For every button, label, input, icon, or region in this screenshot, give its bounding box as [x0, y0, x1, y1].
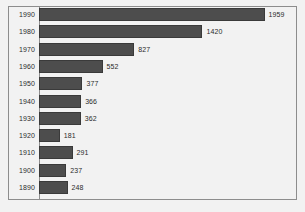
y-axis-tick-label: 1900 [1, 163, 35, 178]
bar-row: 1900237 [39, 163, 290, 178]
bar-value-label: 1959 [269, 7, 285, 22]
bar [39, 112, 81, 125]
y-axis-tick-label: 1890 [1, 180, 35, 195]
bar [39, 129, 60, 142]
y-axis-tick-label: 1920 [1, 128, 35, 143]
bar-row: 1960552 [39, 59, 290, 74]
bar-row: 1920181 [39, 128, 290, 143]
bar-row: 1930362 [39, 111, 290, 126]
bar-value-label: 1420 [206, 24, 222, 39]
y-axis-tick-label: 1950 [1, 76, 35, 91]
bar-value-label: 181 [64, 128, 76, 143]
bar-row: 1950377 [39, 76, 290, 91]
bar [39, 60, 103, 73]
bar-value-label: 366 [85, 94, 97, 109]
plot-area: 1990195919801420197082719605521950377194… [39, 7, 290, 197]
bar-value-label: 362 [85, 111, 97, 126]
bar-row: 1970827 [39, 42, 290, 57]
bar-value-label: 552 [107, 59, 119, 74]
bar-value-label: 237 [70, 163, 82, 178]
bar-row: 1890248 [39, 180, 290, 195]
y-axis-tick-label: 1970 [1, 42, 35, 57]
bar [39, 164, 66, 177]
bar-value-label: 291 [77, 145, 89, 160]
bar [39, 25, 202, 38]
bar [39, 43, 134, 56]
bar-value-label: 827 [138, 42, 150, 57]
y-axis-tick-label: 1910 [1, 145, 35, 160]
bar-row: 1910291 [39, 145, 290, 160]
bar-row: 19901959 [39, 7, 290, 22]
bar [39, 95, 81, 108]
bar [39, 77, 82, 90]
bar-chart-figure: 1990195919801420197082719605521950377194… [0, 0, 305, 212]
bar-row: 19801420 [39, 24, 290, 39]
bar-value-label: 248 [72, 180, 84, 195]
bar [39, 8, 265, 21]
bar-value-label: 377 [86, 76, 98, 91]
bar [39, 146, 73, 159]
y-axis-tick-label: 1960 [1, 59, 35, 74]
y-axis-tick-label: 1980 [1, 24, 35, 39]
y-axis-tick-label: 1940 [1, 94, 35, 109]
y-axis-tick-label: 1990 [1, 7, 35, 22]
bar-row: 1940366 [39, 94, 290, 109]
bar [39, 181, 68, 194]
y-axis-tick-label: 1930 [1, 111, 35, 126]
